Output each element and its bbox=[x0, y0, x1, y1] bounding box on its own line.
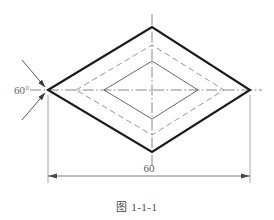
angle-leader-lower bbox=[22, 93, 45, 120]
centre-lines-group bbox=[30, 14, 262, 167]
angle-leader-upper bbox=[22, 60, 45, 87]
length-dimension-label: 60 bbox=[144, 162, 156, 174]
figure-svg: 60° 60 bbox=[0, 0, 274, 220]
figure-caption: 图 1-1-1 bbox=[0, 198, 274, 214]
technical-drawing-canvas: 60° 60 图 1-1-1 bbox=[0, 0, 274, 220]
outer-diamond-outline bbox=[48, 27, 250, 152]
angle-dimension-label: 60° bbox=[14, 84, 29, 96]
